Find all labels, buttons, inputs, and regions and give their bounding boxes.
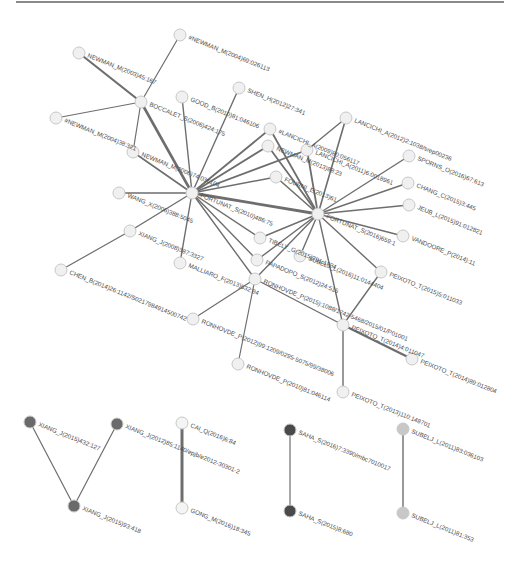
node-label: GONG_M(2016)18:345 xyxy=(190,506,253,537)
graph-node[interactable] xyxy=(111,418,123,430)
graph-node[interactable] xyxy=(68,500,80,512)
node-label: NEWMAN_M(2006)74:036104 xyxy=(141,150,222,188)
node-label: XIANG_J(2015)432:127 xyxy=(38,420,102,451)
citation-edge xyxy=(61,231,130,270)
graph-node[interactable] xyxy=(254,232,266,244)
graph-node[interactable] xyxy=(50,112,62,124)
node-label: SUBELJ_L(2011)83:036103 xyxy=(411,427,485,463)
node-label: XIANG_J(2015)93:418 xyxy=(82,504,143,534)
node-label: PEIXOTO_T(2015)5:011033 xyxy=(389,270,464,306)
graph-node[interactable] xyxy=(176,502,188,514)
graph-node[interactable] xyxy=(397,507,409,519)
node-label: CAI_Q(2016)6:84 xyxy=(190,421,238,446)
node-label: CHEN_B(2014)26:1142/S0217984914500742 xyxy=(69,268,189,322)
graph-node[interactable] xyxy=(337,386,349,398)
graph-node[interactable] xyxy=(403,150,415,162)
node-label: PEIXOTO_T(2014)89:012804 xyxy=(420,357,499,394)
node-label: #NEWMAN_M(2004)69:026113 xyxy=(188,33,272,72)
graph-node[interactable] xyxy=(55,264,67,276)
graph-node[interactable] xyxy=(375,266,387,278)
node-label: FORTUNAT_S(2016)659:1 xyxy=(326,212,398,246)
graph-node[interactable] xyxy=(24,416,36,428)
graph-node[interactable] xyxy=(337,319,349,331)
graph-node[interactable] xyxy=(312,208,324,220)
graph-node[interactable] xyxy=(176,91,188,103)
graph-node[interactable] xyxy=(270,171,282,183)
node-label: SHEN_H(2012)27:341 xyxy=(247,86,308,116)
graph-node[interactable] xyxy=(262,140,274,152)
node-label: XIANG_J(2008)387:3327 xyxy=(138,229,206,262)
graph-node[interactable] xyxy=(135,96,147,108)
graph-node[interactable] xyxy=(174,29,186,41)
graph-node[interactable] xyxy=(73,47,85,59)
node-label: FORTUNAT_S(2010)486:75 xyxy=(200,191,275,227)
node-label: SAHA_S(2016)7:3390/mbc7010017 xyxy=(298,428,393,472)
graph-node[interactable] xyxy=(176,417,188,429)
graph-node[interactable] xyxy=(251,254,263,266)
labels-layer: #NEWMAN_M(2004)69:026113NEWMAN_M(2003)45… xyxy=(38,33,499,543)
graph-node[interactable] xyxy=(113,187,125,199)
graph-node[interactable] xyxy=(124,225,136,237)
graph-node[interactable] xyxy=(284,424,296,436)
node-label: WANG_X(2006)388:5045 xyxy=(127,191,195,224)
graph-node[interactable] xyxy=(186,187,198,199)
graph-node[interactable] xyxy=(403,199,415,211)
graph-node[interactable] xyxy=(397,423,409,435)
node-label: #NEWMAN_M(2004)38:321 xyxy=(64,116,139,152)
graph-node[interactable] xyxy=(402,177,414,189)
graph-node[interactable] xyxy=(233,82,245,94)
graph-node[interactable] xyxy=(284,505,296,517)
node-label: SUBELJ_L(2011)81:353 xyxy=(411,511,476,543)
network-graph: #NEWMAN_M(2004)69:026113NEWMAN_M(2003)45… xyxy=(0,0,516,562)
node-label: RONHOVDE_P(2012)99:1209/0295-5075/99/380… xyxy=(201,317,336,377)
node-label: PEIXOTO_T(2013)110:148701 xyxy=(351,390,433,428)
graph-node[interactable] xyxy=(249,273,261,285)
graph-node[interactable] xyxy=(174,257,186,269)
citation-edge xyxy=(56,102,141,118)
graph-node[interactable] xyxy=(187,313,199,325)
graph-node[interactable] xyxy=(397,230,409,242)
graph-node[interactable] xyxy=(232,358,244,370)
citation-edge xyxy=(192,129,270,193)
graph-node[interactable] xyxy=(340,112,352,124)
node-label: VANDOORE_P(2014):11 xyxy=(411,234,478,266)
citation-edge xyxy=(141,35,180,102)
graph-node[interactable] xyxy=(264,123,276,135)
node-label: SAHA_S(2015)8:680 xyxy=(298,509,355,537)
